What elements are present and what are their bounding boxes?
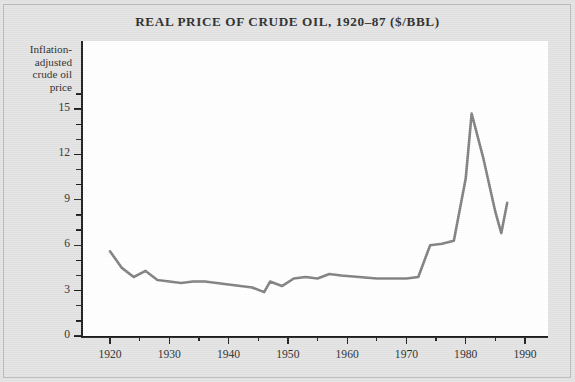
- chart-page: REAL PRICE OF CRUDE OIL, 1920–87 ($/BBL)…: [0, 0, 575, 382]
- data-line-layer: [0, 0, 575, 382]
- data-series-line: [110, 114, 507, 293]
